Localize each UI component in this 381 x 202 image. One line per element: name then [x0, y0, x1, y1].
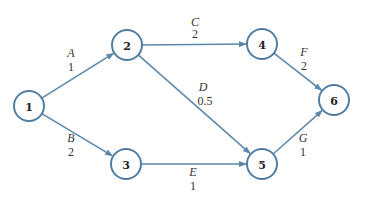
network-diagram: A1B2C2D0.5E1F2G1 123456 [0, 0, 381, 202]
edge-e: E1 [141, 164, 246, 193]
node-4: 4 [247, 29, 277, 59]
edge-weight-label: 2 [301, 59, 307, 73]
node-2: 2 [112, 30, 142, 60]
node-label: 3 [122, 159, 130, 172]
edge-name-label: A [66, 46, 75, 60]
edge-a: A1 [42, 46, 114, 98]
edge-arrow [42, 53, 114, 98]
edge-b: B2 [42, 114, 112, 159]
edge-d: D0.5 [138, 55, 250, 154]
node-1: 1 [14, 91, 44, 121]
node-3: 3 [111, 149, 141, 179]
edge-arrow [274, 53, 322, 90]
node-label: 5 [258, 159, 266, 172]
edge-arrow [42, 114, 112, 156]
node-label: 1 [25, 101, 33, 114]
edge-weight-label: 1 [300, 145, 306, 159]
edge-name-label: B [67, 131, 75, 145]
node-6: 6 [319, 85, 349, 115]
edge-weight-label: 0.5 [198, 94, 213, 108]
edges: A1B2C2D0.5E1F2G1 [42, 15, 322, 193]
edge-name-label: G [299, 131, 308, 145]
edge-arrow [142, 44, 246, 45]
node-label: 6 [330, 95, 338, 108]
node-label: 2 [123, 40, 131, 53]
edge-arrow [138, 55, 250, 154]
node-5: 5 [247, 149, 277, 179]
edge-weight-label: 1 [68, 60, 74, 74]
edge-name-label: E [188, 165, 197, 179]
nodes: 123456 [14, 29, 349, 179]
edge-g: G1 [273, 111, 322, 159]
edge-name-label: D [198, 80, 208, 94]
edge-name-label: F [299, 45, 308, 59]
node-label: 4 [258, 39, 266, 52]
edge-weight-label: 2 [68, 145, 74, 159]
edge-c: C2 [142, 15, 246, 45]
edge-arrow [273, 111, 322, 154]
edge-weight-label: 1 [190, 179, 196, 193]
edge-f: F2 [274, 45, 322, 90]
edge-weight-label: 2 [192, 27, 198, 41]
